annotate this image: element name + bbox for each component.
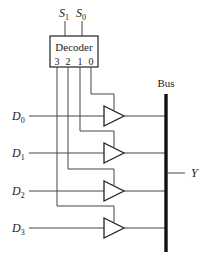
data-input-d2: D2: [11, 181, 166, 201]
select-input-s0: S0: [76, 6, 86, 36]
decoder-label: Decoder: [55, 41, 93, 53]
svg-text:D2: D2: [11, 184, 25, 200]
decoder-output-label-1: 1: [78, 56, 83, 67]
decoder-output-label-0: 0: [89, 56, 94, 67]
svg-text:D3: D3: [11, 221, 25, 237]
output-y: Y: [167, 166, 199, 180]
bus-label: Bus: [157, 77, 174, 89]
data-input-d0: D0: [11, 106, 166, 126]
bus: Bus: [157, 77, 174, 252]
enable-line-1: [80, 67, 114, 147]
decoder-block: Decoder 3 2 1 0: [50, 36, 98, 67]
decoder-output-label-3: 3: [55, 56, 60, 67]
data-input-d3: D3: [11, 218, 166, 238]
svg-text:S1: S1: [59, 6, 69, 22]
data-input-d1: D1: [11, 143, 166, 163]
svg-text:D0: D0: [11, 109, 25, 125]
output-y-label: Y: [191, 166, 199, 180]
select-input-s1: S1: [59, 6, 69, 36]
svg-text:S0: S0: [76, 6, 86, 22]
decoder-output-label-2: 2: [66, 56, 71, 67]
enable-line-0: [91, 67, 114, 110]
svg-text:D1: D1: [11, 146, 25, 162]
tristate-bus-diagram: S1 S0 Decoder 3 2 1 0 D0 D1 D2: [0, 0, 208, 267]
